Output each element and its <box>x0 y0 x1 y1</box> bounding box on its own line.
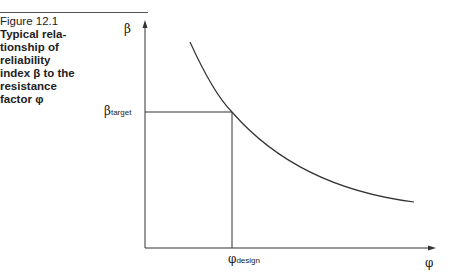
beta-target-label: βtarget <box>104 104 131 118</box>
x-axis-label: φ <box>425 256 433 270</box>
diagram <box>0 0 457 279</box>
phi-design-label: φdesign <box>228 252 260 266</box>
y-axis-label: β <box>124 22 131 36</box>
